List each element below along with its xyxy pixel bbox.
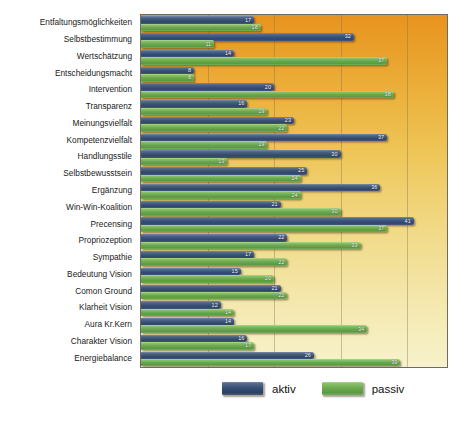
bar-passiv: 34 (141, 325, 367, 333)
bar-row: 3719 (141, 132, 447, 149)
bar-value-label: 24 (291, 176, 297, 181)
bar-value-label: 14 (225, 320, 231, 325)
bar-passiv: 30 (141, 208, 341, 216)
bar-row: 2322 (141, 116, 447, 133)
bar-value-label: 16 (238, 102, 244, 107)
bar-row: 1617 (141, 333, 447, 350)
bar-value-label: 21 (271, 286, 277, 291)
bar-value-label: 41 (405, 219, 411, 224)
bar-row: 1619 (141, 99, 447, 116)
bar-row: 2233 (141, 233, 447, 250)
bar-value-label: 33 (351, 243, 357, 248)
bar-value-label: 8 (188, 68, 191, 73)
category-label: Selbstbestimmung (64, 31, 132, 48)
bar-passiv: 13 (141, 158, 227, 166)
bar-value-label: 22 (278, 126, 284, 131)
category-axis-labels: EntfaltungsmöglichkeitenSelbstbestimmung… (0, 14, 136, 368)
bar-value-label: 8 (188, 76, 191, 81)
bar-value-label: 39 (391, 361, 397, 366)
bar-aktiv: 12 (141, 301, 221, 309)
bar-row: 1434 (141, 317, 447, 334)
legend-swatch-aktiv (222, 382, 263, 395)
bar-passiv: 22 (141, 292, 287, 300)
category-label: Meinungsvielfalt (73, 115, 133, 132)
bar-passiv: 37 (141, 225, 387, 233)
bar-passiv: 20 (141, 275, 274, 283)
bar-aktiv: 16 (141, 100, 247, 108)
category-label: Energiebalance (74, 349, 132, 366)
category-label: Selbstbewusstsein (63, 165, 132, 182)
bar-value-label: 22 (278, 236, 284, 241)
bar-value-label: 17 (245, 18, 251, 23)
category-label: Klarheit Vision (79, 299, 132, 316)
bar-value-label: 25 (298, 169, 304, 174)
bar-row: 2130 (141, 199, 447, 216)
bar-passiv: 24 (141, 175, 301, 183)
bar-value-label: 14 (225, 51, 231, 56)
category-label: Bedeutung Vision (67, 265, 132, 282)
bar-row: 4137 (141, 216, 447, 233)
legend-swatch-passiv (322, 382, 363, 395)
bar-value-label: 13 (218, 159, 224, 164)
category-label: Entscheidungsmacht (55, 64, 132, 81)
category-label: Win-Win-Koalition (66, 198, 132, 215)
plot-area: 1718321114378820381619232237193013252436… (140, 14, 448, 368)
bar-value-label: 30 (331, 210, 337, 215)
bar-value-label: 17 (245, 253, 251, 258)
bar-row: 3211 (141, 32, 447, 49)
category-label: Wertschätzung (77, 48, 132, 65)
bar-row: 3624 (141, 183, 447, 200)
bar-value-label: 19 (258, 143, 264, 148)
bar-aktiv: 17 (141, 16, 254, 24)
category-label: Intervention (89, 81, 132, 98)
bar-chart: EntfaltungsmöglichkeitenSelbstbestimmung… (0, 0, 475, 421)
bar-row: 1722 (141, 250, 447, 267)
bar-passiv: 19 (141, 141, 267, 149)
bar-value-label: 38 (385, 92, 391, 97)
bar-passiv: 18 (141, 24, 261, 32)
category-label: Kompetenzvielfalt (67, 131, 133, 148)
bars-layer: 1718321114378820381619232237193013252436… (141, 15, 447, 367)
bar-value-label: 37 (378, 135, 384, 140)
category-label: Entfaltungsmöglichkeiten (40, 14, 132, 31)
bar-passiv: 22 (141, 124, 287, 132)
category-label: Ergänzung (92, 182, 132, 199)
bar-value-label: 18 (252, 25, 258, 30)
bar-value-label: 22 (278, 260, 284, 265)
bar-row: 88 (141, 65, 447, 82)
bar-passiv: 39 (141, 359, 400, 367)
bar-value-label: 23 (285, 118, 291, 123)
bar-value-label: 19 (258, 109, 264, 114)
bar-aktiv: 26 (141, 352, 314, 360)
bar-row: 1437 (141, 49, 447, 66)
bar-value-label: 36 (371, 186, 377, 191)
bar-aktiv: 41 (141, 217, 414, 225)
bar-value-label: 17 (245, 344, 251, 349)
legend-item-passiv: passiv (322, 382, 405, 395)
bar-aktiv: 30 (141, 150, 341, 158)
bar-row: 2524 (141, 166, 447, 183)
legend-label-aktiv: aktiv (272, 383, 296, 395)
bar-row: 1718 (141, 15, 447, 32)
bar-value-label: 11 (205, 42, 211, 47)
bar-value-label: 37 (378, 59, 384, 64)
bar-value-label: 15 (232, 269, 238, 274)
bar-value-label: 37 (378, 226, 384, 231)
bar-passiv: 14 (141, 309, 234, 317)
bar-row: 2122 (141, 283, 447, 300)
bar-passiv: 38 (141, 91, 394, 99)
category-label: Aura Kr.Kern (84, 316, 132, 333)
bar-value-label: 30 (331, 152, 337, 157)
bar-row: 2639 (141, 350, 447, 367)
bar-value-label: 16 (238, 336, 244, 341)
category-label: Comon Ground (75, 282, 132, 299)
category-label: Sympathie (93, 249, 132, 266)
bar-passiv: 11 (141, 40, 214, 48)
bar-row: 3013 (141, 149, 447, 166)
bar-value-label: 24 (291, 193, 297, 198)
bar-value-label: 32 (345, 35, 351, 40)
bar-value-label: 20 (265, 277, 271, 282)
bar-value-label: 20 (265, 85, 271, 90)
bar-aktiv: 21 (141, 285, 281, 293)
bar-passiv: 24 (141, 191, 301, 199)
